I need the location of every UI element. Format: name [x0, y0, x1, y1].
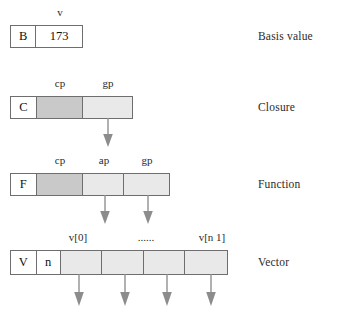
basis-tag-cell: B	[11, 26, 36, 47]
vector-element-cell-0	[61, 251, 103, 274]
vector-tag-cell: V	[11, 251, 37, 274]
closure-cp-cell	[37, 97, 83, 118]
cell-label-closure-cp: cp	[55, 77, 65, 89]
cell-label-vector-last: v[n 1]	[199, 231, 226, 243]
vector-element-arrow-2	[158, 274, 176, 308]
closure-gp-arrow	[99, 118, 117, 148]
vector-struct: V n	[10, 250, 228, 275]
vector-element-arrow-1	[116, 274, 134, 308]
cell-label-function-ap: ap	[99, 154, 109, 166]
cell-label-v: v	[57, 6, 63, 18]
function-ap-arrow	[96, 195, 114, 225]
vector-element-cell-1	[102, 251, 144, 274]
row-label-basis-value: Basis value	[258, 30, 313, 42]
function-struct: F	[10, 173, 170, 196]
cell-label-vector-first: v[0]	[69, 231, 87, 243]
cell-label-closure-gp: gp	[103, 77, 114, 89]
row-label-function: Function	[258, 178, 301, 190]
closure-gp-cell	[83, 97, 132, 118]
function-tag-cell: F	[11, 174, 37, 195]
cell-label-vector-ellipsis: ......	[138, 231, 155, 243]
function-cp-cell	[37, 174, 83, 195]
closure-tag-cell: C	[11, 97, 37, 118]
function-gp-cell	[124, 174, 169, 195]
vector-element-arrow-0	[70, 274, 88, 308]
cell-label-function-gp: gp	[142, 154, 153, 166]
basis-value-cell: 173	[36, 26, 82, 47]
vector-element-arrow-3	[202, 274, 220, 308]
row-label-vector: Vector	[258, 256, 289, 268]
vector-element-cell-2	[144, 251, 186, 274]
closure-struct: C	[10, 96, 133, 119]
row-label-closure: Closure	[258, 101, 295, 113]
value-representation-diagram: v B 173 Basis value cp gp C Closure cp a…	[0, 0, 340, 314]
function-gp-arrow	[139, 195, 157, 225]
cell-label-function-cp: cp	[55, 154, 65, 166]
vector-element-cell-3	[185, 251, 227, 274]
function-ap-cell	[83, 174, 123, 195]
vector-count-cell: n	[37, 251, 61, 274]
basis-value-struct: B 173	[10, 25, 83, 48]
